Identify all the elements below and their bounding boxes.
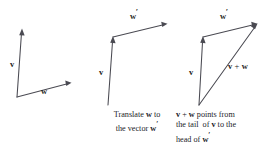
vector-v-arrow — [17, 29, 25, 98]
label-w-prime-panel-3: w′ — [220, 8, 228, 20]
caption-line: the tail of v to the — [176, 120, 277, 130]
panel-1-diagram — [0, 0, 90, 150]
vector-w-prime-arrow — [113, 22, 168, 37]
vector-addition-figure: v w v w′ Translate w to the vec — [0, 0, 277, 150]
panel-translate-w: v w′ Translate w to the vector w′ — [88, 0, 176, 150]
caption-line: the vector w′ — [98, 120, 176, 134]
label-v-plus-w-panel-3: v + w — [228, 62, 248, 71]
label-v-panel-2: v — [99, 68, 103, 77]
caption-line: Translate w to — [98, 110, 176, 120]
caption-resultant-sum: v + w points from the tail of v to the h… — [176, 110, 277, 145]
label-v-panel-1: v — [10, 60, 14, 69]
caption-line: v + w points from — [176, 110, 277, 120]
panel-resultant-sum: v w′ v + w v + w points from the tail of… — [176, 0, 277, 150]
label-w-panel-1: w — [41, 87, 47, 96]
prime-mark-icon: ′ — [136, 7, 139, 17]
label-w-prime-panel-2: w′ — [130, 8, 138, 20]
vector-v-arrow — [199, 36, 206, 105]
vector-v-arrow — [108, 36, 116, 105]
label-v-panel-3: v — [189, 68, 193, 77]
panel-vectors-from-common-tail: v w — [0, 0, 90, 150]
prime-mark-icon: ′ — [226, 7, 229, 17]
caption-line: head of w′ — [176, 131, 277, 145]
caption-translate-w: Translate w to the vector w′ — [98, 110, 176, 134]
